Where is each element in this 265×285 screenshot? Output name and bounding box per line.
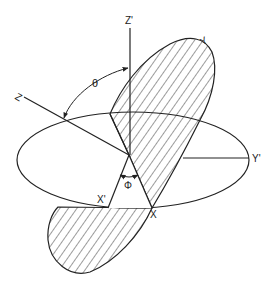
label-phi: Φ	[124, 180, 132, 191]
label-x: X	[150, 209, 157, 220]
label-x-prime: X'	[97, 194, 106, 205]
tilted-plane-lower-lobe	[48, 207, 152, 273]
label-theta: θ	[92, 77, 98, 89]
label-z-prime: Z'	[125, 15, 133, 26]
coordinate-rotation-diagram: Z Z' Y Y' X' X θ Φ	[0, 0, 265, 285]
label-z: Z	[13, 91, 24, 104]
label-y-prime: Y'	[252, 153, 261, 164]
